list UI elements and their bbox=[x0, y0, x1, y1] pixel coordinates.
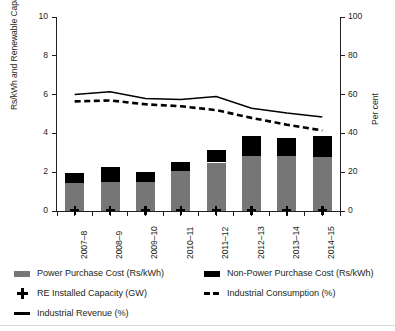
y-axis-right-tick-label: 20 bbox=[348, 167, 372, 176]
y-axis-left-tick bbox=[52, 211, 56, 212]
y-axis-right-tick-label: 80 bbox=[348, 51, 372, 60]
y-axis-left-tick bbox=[52, 133, 56, 134]
y-axis-right-tick bbox=[341, 94, 345, 95]
x-axis-tick bbox=[304, 212, 305, 216]
y-axis-right-tick bbox=[341, 211, 345, 212]
legend-item-non-power-purchase-cost: Non-Power Purchase Cost (Rs/kWh) bbox=[204, 265, 373, 282]
y-axis-left-tick-label: 4 bbox=[26, 128, 48, 137]
industrial-revenue-line bbox=[75, 92, 323, 117]
plot-area bbox=[57, 17, 340, 211]
x-axis-tick bbox=[127, 212, 128, 216]
x-axis-tick bbox=[233, 212, 234, 216]
black-swatch-icon bbox=[204, 271, 220, 277]
x-axis-tick bbox=[57, 212, 58, 216]
chart-container: Rs/kWh and Renewable Capacity (in GW) Pe… bbox=[0, 0, 395, 331]
y-axis-left-tick-label: 2 bbox=[26, 167, 48, 176]
plus-marker-icon bbox=[282, 206, 291, 215]
y-axis-right-tick-label: 60 bbox=[348, 90, 372, 99]
y-axis-right-tick bbox=[341, 172, 345, 173]
legend-item-industrial-consumption: Industrial Consumption (%) bbox=[204, 285, 335, 302]
y-axis-left-tick-label: 8 bbox=[26, 51, 48, 60]
y-axis-left-tick bbox=[52, 17, 56, 18]
legend-label: Power Purchase Cost (Rs/kWh) bbox=[37, 268, 164, 279]
y-axis-left-tick-label: 6 bbox=[26, 90, 48, 99]
grey-swatch-icon bbox=[14, 271, 30, 277]
line-series-group bbox=[57, 17, 340, 211]
y-axis-right-tick bbox=[341, 133, 345, 134]
y-axis-right-tick-label: 40 bbox=[348, 128, 372, 137]
x-axis-label: 2012–13 bbox=[256, 226, 266, 259]
y-axis-right-tick-label: 100 bbox=[348, 12, 372, 21]
legend-label: Non-Power Purchase Cost (Rs/kWh) bbox=[227, 268, 373, 279]
legend-item-power-purchase-cost: Power Purchase Cost (Rs/kWh) bbox=[14, 265, 164, 282]
x-axis-label: 2010–11 bbox=[185, 227, 195, 259]
plus-marker-icon bbox=[70, 206, 79, 215]
plus-marker-icon bbox=[247, 206, 256, 215]
x-axis-label: 2011–12 bbox=[220, 227, 230, 259]
plus-marker-icon bbox=[212, 206, 221, 215]
y-axis-left-tick-label: 10 bbox=[26, 12, 48, 21]
x-axis-label: 2009–10 bbox=[149, 226, 159, 259]
x-axis-label: 2014–15 bbox=[326, 226, 336, 259]
industrial-consumption-line bbox=[75, 100, 323, 130]
y-axis-left-tick-label: 0 bbox=[26, 206, 48, 215]
x-axis-label: 2007–8 bbox=[79, 231, 89, 259]
y-axis-right-tick bbox=[341, 17, 345, 18]
x-axis-tick bbox=[340, 212, 341, 216]
x-axis-tick bbox=[198, 212, 199, 216]
plus-marker-icon bbox=[106, 206, 115, 215]
x-axis-label: 2008–9 bbox=[114, 231, 124, 259]
plus-marker-icon bbox=[14, 288, 30, 299]
y-axis-right-tick bbox=[341, 55, 345, 56]
legend-item-industrial-revenue: Industrial Revenue (%) bbox=[14, 305, 128, 322]
y-axis-left-title: Rs/kWh and Renewable Capacity (in GW) bbox=[7, 0, 21, 126]
legend-label: Industrial Revenue (%) bbox=[37, 308, 128, 319]
plus-marker-icon bbox=[176, 206, 185, 215]
dashed-line-icon bbox=[204, 292, 220, 296]
legend-label: Industrial Consumption (%) bbox=[227, 288, 335, 299]
y-axis-left-tick bbox=[52, 55, 56, 56]
x-axis-tick bbox=[163, 212, 164, 216]
y-axis-left-tick bbox=[52, 172, 56, 173]
y-axis-right-line bbox=[340, 17, 341, 212]
plus-marker-icon bbox=[318, 206, 327, 215]
x-axis-tick bbox=[269, 212, 270, 216]
x-axis-tick bbox=[92, 212, 93, 216]
x-axis-label: 2013–14 bbox=[291, 226, 301, 259]
solid-line-icon bbox=[14, 312, 30, 314]
plus-marker-icon bbox=[141, 206, 150, 215]
bottom-divider bbox=[0, 325, 395, 326]
y-axis-left-tick bbox=[52, 94, 56, 95]
legend-item-re-installed-capacity: RE Installed Capacity (GW) bbox=[14, 285, 147, 302]
y-axis-right-tick-label: 0 bbox=[348, 206, 372, 215]
legend-label: RE Installed Capacity (GW) bbox=[37, 288, 147, 299]
